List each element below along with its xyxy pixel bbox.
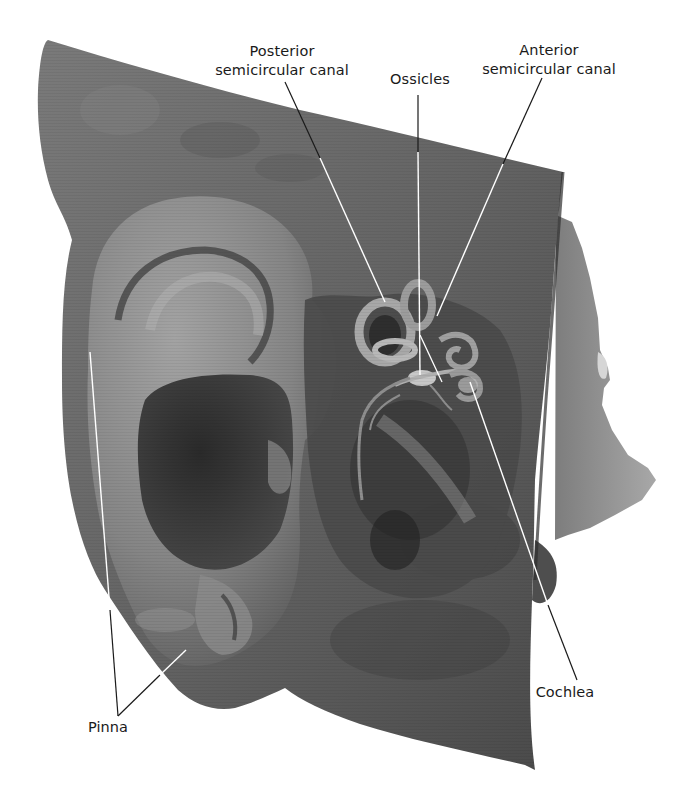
label-posterior-line1: Posterior <box>212 42 352 61</box>
leader-pinna-lower <box>118 675 160 716</box>
label-pinna: Pinna <box>78 718 138 737</box>
scanline-texture <box>38 40 563 770</box>
label-posterior-semicircular-canal: Posterior semicircular canal <box>212 42 352 80</box>
label-ossicles-line1: Ossicles <box>370 70 470 89</box>
leader-pinna-upper <box>110 610 118 716</box>
label-posterior-line2: semicircular canal <box>212 61 352 80</box>
leader-anterior-canal <box>503 78 542 164</box>
label-anterior-line2: semicircular canal <box>479 60 619 79</box>
label-ossicles: Ossicles <box>370 70 470 89</box>
label-cochlea-line1: Cochlea <box>530 683 600 702</box>
label-cochlea: Cochlea <box>530 683 600 702</box>
label-anterior-line1: Anterior <box>479 41 619 60</box>
label-anterior-semicircular-canal: Anterior semicircular canal <box>479 41 619 79</box>
leader-cochlea <box>548 605 577 680</box>
label-pinna-line1: Pinna <box>78 718 138 737</box>
